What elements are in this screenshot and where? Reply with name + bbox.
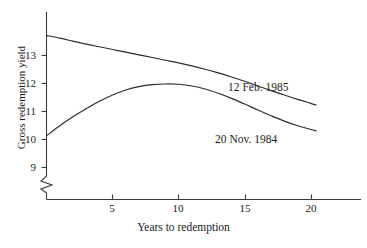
x-tick-label-10: 10 (166, 203, 190, 214)
x-tick-label-5: 5 (100, 203, 124, 214)
x-tick-label-15: 15 (233, 203, 257, 214)
series-annotation-12-feb-1985: 12 Feb. 1985 (228, 82, 288, 94)
gross-redemption-yield-chart: 13 12 11 10 9 5 10 15 20 Gross redemptio… (0, 0, 367, 248)
series-line-12-feb-1985 (47, 35, 317, 105)
series-annotation-20-nov-1984: 20 Nov. 1984 (215, 134, 277, 146)
x-tick-label-20: 20 (299, 203, 323, 214)
axes-group (41, 12, 361, 200)
y-axis-title: Gross redemption yield (16, 33, 27, 163)
x-axis-title: Years to redemption (0, 222, 367, 234)
y-tick-label-9: 9 (14, 162, 36, 173)
y-axis-break-zigzag (41, 176, 52, 193)
